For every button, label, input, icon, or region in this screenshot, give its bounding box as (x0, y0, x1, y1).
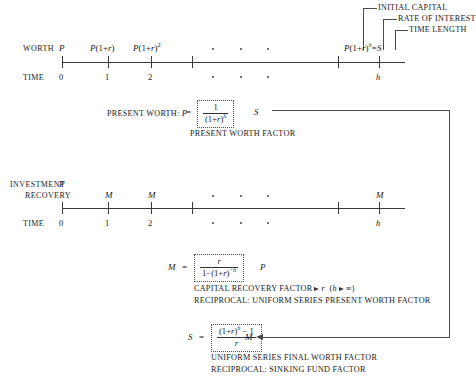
worth-tick-4 (338, 56, 339, 68)
worth-time-ellipsis-dot-2 (240, 76, 242, 78)
final-worth-caption-line1: UNIFORM SERIES FINAL WORTH FACTOR (211, 353, 377, 362)
connector-top-horizontal (272, 110, 450, 111)
investment-ellipsis-dot-1 (212, 195, 214, 197)
investment-time-ellipsis-dot-2 (240, 222, 242, 224)
worth-time-ellipsis-dot-1 (212, 76, 214, 78)
investment-payment-h: M (376, 190, 384, 200)
arrow-right-icon-2 (339, 287, 344, 291)
final-worth-multiplier: M (245, 332, 253, 342)
worth-time-h: h (376, 72, 380, 82)
investment-initial-value: P (59, 179, 65, 189)
callout-label-time-length: TIME LENGTH (409, 25, 467, 34)
present-worth-prefix: PRESENT WORTH: P (107, 108, 188, 118)
connector-right-vertical (449, 110, 450, 338)
investment-time-ellipsis-dot-3 (267, 222, 269, 224)
capital-recovery-fraction: r 1−(1+r)−h (200, 256, 238, 278)
investment-ellipsis-dot-3 (267, 195, 269, 197)
worth-ellipsis-dot-1 (212, 48, 214, 50)
investment-tick-0 (62, 202, 63, 214)
present-worth-caption: PRESENT WORTH FACTOR (190, 129, 295, 138)
investment-tick-3 (192, 202, 193, 214)
callout-line-rate-of-interest-h (383, 19, 397, 20)
worth-tick-1 (108, 56, 109, 68)
present-worth-factor-box: 1 (1+r)h (197, 100, 234, 128)
capital-recovery-numerator: r (200, 256, 238, 266)
capital-recovery-lhs: M (168, 262, 176, 272)
worth-tick-h (379, 56, 380, 68)
worth-value-1: P(1+r) (90, 43, 115, 53)
worth-time-0: 0 (59, 72, 63, 82)
present-worth-fraction: 1 (1+r)h (203, 102, 228, 124)
worth-ellipsis-dot-3 (267, 48, 269, 50)
worth-row-label: WORTH (23, 44, 54, 53)
worth-time-2: 2 (148, 72, 152, 82)
final-worth-caption-line2: RECIPROCAL: SINKING FUND FACTOR (211, 365, 366, 374)
arrow-right-icon-1 (314, 287, 319, 291)
present-worth-numerator: 1 (203, 102, 228, 112)
investment-time-label: TIME (23, 219, 44, 228)
worth-tick-2 (151, 56, 152, 68)
worth-ellipsis-dot-2 (240, 48, 242, 50)
capital-recovery-denominator: 1−(1+r)−h (200, 268, 238, 278)
worth-axis-line (62, 62, 405, 63)
callout-label-initial-capital: INITIAL CAPITAL (378, 3, 447, 12)
capital-recovery-caption-line2: RECIPROCAL: UNIFORM SERIES PRESENT WORTH… (194, 296, 431, 305)
callout-line-initial-capital-h (363, 8, 377, 9)
callout-label-rate-of-interest: RATE OF INTEREST (398, 14, 476, 23)
worth-time-ellipsis-dot-3 (267, 76, 269, 78)
present-worth-denominator: (1+r)h (203, 114, 228, 124)
investment-time-0: 0 (59, 218, 63, 228)
investment-ellipsis-dot-2 (240, 195, 242, 197)
capital-recovery-multiplier: P (260, 262, 266, 272)
investment-time-h: h (376, 218, 380, 228)
worth-value-h: P(1+r)h=S (344, 43, 381, 53)
capital-recovery-equals: = (182, 262, 187, 272)
worth-time-1: 1 (105, 72, 109, 82)
final-worth-equals: = (199, 332, 204, 342)
capital-recovery-caption-line1: CAPITAL RECOVERY FACTORr (h∞) (194, 284, 355, 293)
investment-tick-2 (151, 202, 152, 214)
capital-recovery-limit-var: h (332, 284, 336, 293)
callout-line-time-length-h (395, 30, 408, 31)
investment-tick-4 (338, 202, 339, 214)
investment-row-label-line2: RECOVERY (25, 191, 71, 200)
capital-recovery-caption-text: CAPITAL RECOVERY FACTOR (194, 284, 312, 293)
present-worth-multiplier: S (254, 107, 259, 117)
finance-factor-diagram: { "callouts": [ {"label": "INITIAL CAPIT… (0, 0, 476, 385)
investment-payment-2: M (148, 190, 156, 200)
capital-recovery-limit-value: r (321, 284, 324, 293)
investment-tick-1 (108, 202, 109, 214)
capital-recovery-factor-box: r 1−(1+r)−h (194, 254, 244, 282)
investment-time-2: 2 (148, 218, 152, 228)
investment-time-ellipsis-dot-1 (212, 222, 214, 224)
worth-tick-0 (62, 56, 63, 68)
present-worth-equals: = (186, 107, 191, 117)
investment-tick-h (379, 202, 380, 214)
investment-payment-1: M (105, 190, 113, 200)
investment-time-1: 1 (105, 218, 109, 228)
connector-bottom-horizontal (262, 337, 450, 338)
final-worth-factor-box: (1+r)h − 1 r (211, 324, 262, 352)
callout-line-rate-of-interest-v (383, 19, 384, 50)
worth-tick-3 (192, 56, 193, 68)
worth-value-0: P (59, 43, 65, 53)
investment-axis-line (62, 208, 405, 209)
worth-value-2: P(1+r)2 (133, 43, 161, 53)
worth-time-label: TIME (23, 73, 44, 82)
final-worth-lhs: S (188, 332, 193, 342)
investment-row-label-line1: INVESTMENT (10, 180, 65, 189)
callout-line-time-length-v (395, 30, 396, 50)
